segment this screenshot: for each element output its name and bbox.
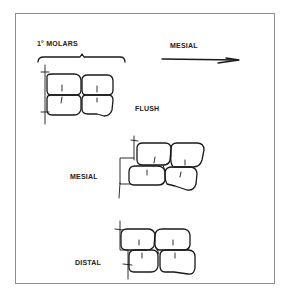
mesial-step-molar-drawing xyxy=(119,136,204,198)
brace-icon xyxy=(38,54,125,62)
flush-molar-drawing xyxy=(41,65,113,124)
mesial-arrow-icon xyxy=(162,58,239,63)
distal-step-molar-drawing xyxy=(115,221,195,279)
molar-diagram xyxy=(0,0,291,295)
